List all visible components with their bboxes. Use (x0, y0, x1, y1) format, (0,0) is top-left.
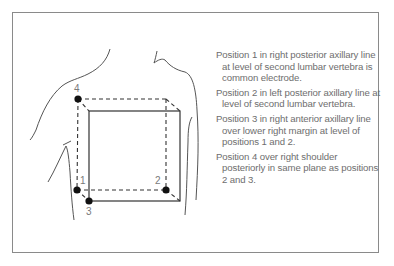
left-shoulder-outline (30, 49, 110, 140)
point-label-2: 2 (155, 176, 161, 186)
electrode-dot-3 (85, 197, 92, 204)
legend-item-1: Position 1 in right posterior axillary l… (213, 49, 381, 84)
cube-back-face (77, 99, 180, 201)
left-arm-outline (48, 146, 74, 220)
electrode-dot-2 (162, 186, 169, 193)
legend-item-4: Position 4 over right shoulder posterior… (213, 151, 381, 186)
point-label-3: 3 (86, 207, 92, 217)
position-legend: Position 1 in right posterior axillary l… (213, 49, 381, 189)
right-underarm-outline (185, 117, 192, 215)
point-label-4: 4 (74, 84, 80, 94)
arm-tick (63, 141, 71, 145)
point-label-1: 1 (80, 176, 86, 186)
electrode-dot-4 (74, 95, 81, 102)
electrode-dot-1 (73, 186, 80, 193)
legend-item-2: Position 2 in left posterior axillary li… (213, 87, 381, 110)
legend-item-3: Position 3 in right anterior axillary li… (213, 113, 381, 148)
